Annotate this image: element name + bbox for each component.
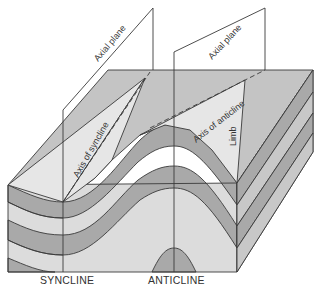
anticline-caption: ANTICLINE bbox=[148, 274, 205, 286]
limb-label: Limb bbox=[228, 126, 238, 146]
axial-plane-label-right: Axial plane bbox=[206, 22, 243, 61]
fold-block-diagram: Axial plane Axial plane Axis of syncline… bbox=[0, 0, 317, 290]
syncline-caption: SYNCLINE bbox=[40, 274, 94, 286]
